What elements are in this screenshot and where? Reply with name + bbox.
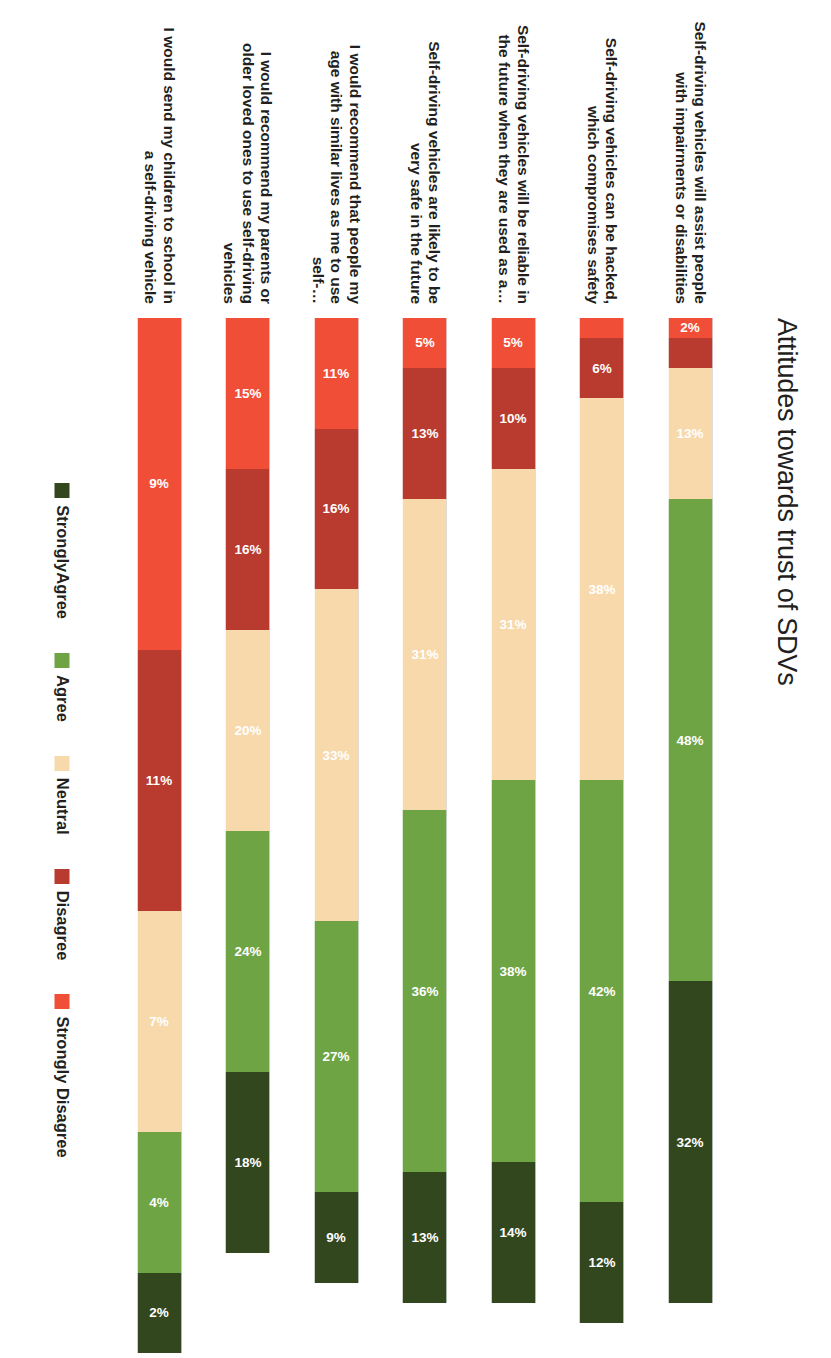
bar-segment[interactable]: 9% bbox=[314, 1192, 358, 1282]
bar-segment[interactable]: 16% bbox=[225, 469, 269, 630]
bar-segment[interactable]: 42% bbox=[579, 780, 623, 1202]
bar-segment[interactable]: 2% bbox=[668, 318, 712, 338]
segment-value-label: 5% bbox=[414, 336, 434, 351]
bar-segment[interactable]: 38% bbox=[491, 780, 535, 1162]
segment-value-label: 2% bbox=[680, 321, 700, 336]
legend-swatch-icon bbox=[54, 756, 69, 771]
bar-segment[interactable]: 33% bbox=[314, 589, 358, 921]
stacked-bar[interactable]: 18%24%20%16%15% bbox=[225, 318, 269, 1253]
segment-value-label: 15% bbox=[234, 386, 261, 401]
bar-segment[interactable]: 48% bbox=[668, 499, 712, 981]
chart-row: I would send my children to school in a … bbox=[115, 318, 204, 1323]
bar-segment[interactable]: 27% bbox=[314, 921, 358, 1192]
segment-value-label: 16% bbox=[322, 501, 349, 516]
segment-value-label: 42% bbox=[588, 984, 615, 999]
category-label: I would send my children to school in a … bbox=[140, 18, 177, 318]
stacked-bar[interactable]: 2%4%7%11%9% bbox=[137, 318, 181, 1353]
bar-segment[interactable]: 18% bbox=[225, 1072, 269, 1253]
bar-segment[interactable]: 2% bbox=[137, 1273, 181, 1353]
bar-segment[interactable]: 20% bbox=[225, 630, 269, 831]
category-label: I would recommend my parents or older lo… bbox=[220, 18, 276, 318]
segment-value-label: 16% bbox=[234, 542, 261, 557]
stacked-bar[interactable]: 32%48%13%2% bbox=[668, 318, 712, 1303]
bar-segment[interactable]: 6% bbox=[579, 338, 623, 398]
segment-value-label: 38% bbox=[588, 582, 615, 597]
bar-segment[interactable]: 11% bbox=[314, 318, 358, 429]
bar-segment[interactable]: 14% bbox=[491, 1162, 535, 1303]
bar-segment[interactable]: 5% bbox=[402, 318, 446, 368]
category-label: Self-driving vehicles will assist people… bbox=[671, 18, 708, 318]
bar-segment[interactable]: 13% bbox=[668, 368, 712, 499]
bar-segment[interactable]: 31% bbox=[402, 499, 446, 811]
bar-segment[interactable]: 12% bbox=[579, 1202, 623, 1323]
bar-segment[interactable]: 16% bbox=[314, 429, 358, 590]
segment-value-label: 6% bbox=[591, 361, 611, 376]
bar-segment[interactable]: 15% bbox=[225, 318, 269, 469]
plot-area: Self-driving vehicles will assist people… bbox=[114, 318, 734, 1323]
segment-value-label: 11% bbox=[323, 366, 349, 381]
segment-value-label: 10% bbox=[499, 411, 526, 426]
chart-row: I would recommend that people my age wit… bbox=[292, 318, 381, 1323]
segment-value-label: 14% bbox=[499, 1225, 526, 1240]
segment-value-label: 12% bbox=[588, 1255, 615, 1270]
bar-segment[interactable]: 10% bbox=[491, 368, 535, 468]
segment-value-label: 36% bbox=[411, 984, 438, 999]
legend-swatch-icon bbox=[54, 653, 69, 668]
legend-swatch-icon bbox=[54, 869, 69, 884]
legend-label: Disagree bbox=[52, 891, 71, 961]
bar-segment[interactable]: 9% bbox=[137, 318, 181, 650]
legend-item[interactable]: StronglyAgree bbox=[52, 483, 71, 619]
legend-label: Strongly Disagree bbox=[52, 1016, 71, 1157]
segment-value-label: 2% bbox=[149, 1305, 169, 1320]
legend-item[interactable]: Neutral bbox=[52, 756, 71, 835]
segment-value-label: 24% bbox=[234, 944, 261, 959]
bar-segment[interactable]: 11% bbox=[137, 650, 181, 911]
segment-value-label: 33% bbox=[322, 748, 349, 763]
chart-row: Self-driving vehicles can be hacked, whi… bbox=[557, 318, 646, 1323]
bar-segment[interactable]: 13% bbox=[402, 1172, 446, 1303]
stacked-bar[interactable]: 9%27%33%16%11% bbox=[314, 318, 358, 1283]
segment-value-label: 27% bbox=[322, 1049, 349, 1064]
legend-label: Neutral bbox=[52, 778, 71, 835]
chart-figure: Attitudes towards trust of SDVs Self-dri… bbox=[0, 0, 831, 1358]
legend-swatch-icon bbox=[54, 994, 69, 1009]
segment-value-label: 48% bbox=[676, 733, 703, 748]
bar-segment[interactable]: 7% bbox=[137, 911, 181, 1132]
segment-value-label: 13% bbox=[676, 426, 703, 441]
segment-value-label: 38% bbox=[499, 964, 526, 979]
legend-swatch-icon bbox=[54, 483, 69, 498]
chart-legend: StronglyAgreeAgreeNeutralDisagreeStrongl… bbox=[52, 318, 71, 1323]
bar-segment[interactable]: 4% bbox=[137, 1132, 181, 1273]
segment-value-label: 13% bbox=[411, 426, 438, 441]
category-label: Self-driving vehicles will be reliable i… bbox=[494, 18, 531, 318]
segment-value-label: 20% bbox=[234, 723, 261, 738]
bar-segment[interactable]: 32% bbox=[668, 981, 712, 1303]
legend-item[interactable]: Disagree bbox=[52, 869, 71, 961]
bar-segment[interactable]: 24% bbox=[225, 831, 269, 1072]
stacked-bar[interactable]: 13%36%31%13%5% bbox=[402, 318, 446, 1303]
bar-segment[interactable]: 36% bbox=[402, 810, 446, 1172]
chart-row: Self-driving vehicles will be reliable i… bbox=[469, 318, 558, 1323]
category-label: Self-driving vehicles can be hacked, whi… bbox=[583, 18, 620, 318]
segment-value-label: 13% bbox=[411, 1230, 438, 1245]
segment-value-label: 31% bbox=[411, 647, 438, 662]
chart-title: Attitudes towards trust of SDVs bbox=[770, 0, 801, 1358]
bar-segment[interactable] bbox=[668, 338, 712, 368]
stacked-bar[interactable]: 14%38%31%10%5% bbox=[491, 318, 535, 1303]
chart-row: Self-driving vehicles are likely to be v… bbox=[380, 318, 469, 1323]
segment-value-label: 7% bbox=[149, 1014, 169, 1029]
legend-item[interactable]: Agree bbox=[52, 653, 71, 722]
chart-row: I would recommend my parents or older lo… bbox=[203, 318, 292, 1323]
stacked-bar[interactable]: 12%42%38%6%2% bbox=[579, 318, 623, 1323]
segment-value-label: 32% bbox=[676, 1135, 703, 1150]
bar-segment[interactable]: 31% bbox=[491, 469, 535, 781]
segment-value-label: 18% bbox=[234, 1155, 261, 1170]
legend-label: StronglyAgree bbox=[52, 505, 71, 619]
segment-value-label: 31% bbox=[499, 617, 526, 632]
bar-segment[interactable]: 2% bbox=[579, 318, 623, 338]
legend-item[interactable]: Strongly Disagree bbox=[52, 994, 71, 1157]
bar-segment[interactable]: 13% bbox=[402, 368, 446, 499]
segment-value-label: 11% bbox=[146, 773, 172, 788]
bar-segment[interactable]: 5% bbox=[491, 318, 535, 368]
bar-segment[interactable]: 38% bbox=[579, 398, 623, 780]
